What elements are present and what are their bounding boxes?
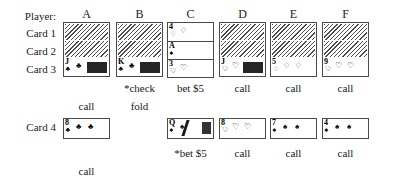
card-face-up: 3♡♡ bbox=[168, 59, 213, 77]
card-pip-hearts-icon: ♡ bbox=[244, 123, 251, 131]
poker-hand-diagram: Player:Card 1Card 2Card 3Card 4ABCDEFJ♣♣… bbox=[0, 0, 403, 181]
card-suit-spades-icon: ♠ bbox=[170, 127, 174, 134]
row-label-card-1: Card 1 bbox=[8, 28, 56, 39]
card-suit-diamonds-icon: ♢ bbox=[273, 66, 279, 73]
card-face-up: 8♣♣♣ bbox=[64, 119, 109, 138]
row-label-card-4: Card 4 bbox=[8, 122, 56, 133]
card-pip-hearts-icon: ♡ bbox=[335, 62, 342, 70]
column-header-player-d: D bbox=[219, 8, 266, 20]
action-player-f-round-1: call bbox=[316, 83, 375, 94]
column-header-player-a: A bbox=[63, 8, 110, 20]
card-suit-hearts-icon: ♡ bbox=[325, 66, 331, 73]
card-suit-spades-icon: ♠ bbox=[273, 127, 277, 134]
card-face-up: 4♠♠♠ bbox=[323, 119, 368, 138]
card-face-down bbox=[65, 41, 108, 57]
card-suit-diamonds-icon: ♢ bbox=[170, 31, 176, 38]
card4-player-d: 8♡♡♡ bbox=[219, 118, 266, 139]
card-suit-hearts-icon: ♡ bbox=[170, 68, 176, 75]
action-player-c-round-3: *bet $5 bbox=[161, 148, 220, 159]
card-stack-player-d: J♡♡ bbox=[219, 22, 266, 77]
card-face-down bbox=[221, 24, 264, 40]
action-player-f-round-3: call bbox=[316, 148, 375, 159]
card-suit-hearts-icon: ♡ bbox=[222, 66, 228, 73]
card-pip-diamonds-icon: ♢ bbox=[180, 27, 187, 35]
column-header-player-c: C bbox=[167, 8, 214, 20]
card-pip-hearts-icon: ♡ bbox=[180, 64, 187, 72]
card-suit-clubs-icon: ♣ bbox=[66, 127, 71, 134]
card-face-up: J♡♡ bbox=[220, 58, 265, 76]
card-pip-hearts-icon: ♡ bbox=[232, 123, 239, 131]
action-player-a-round-4: call bbox=[57, 166, 116, 177]
card-suit-hearts-icon: ♡ bbox=[222, 127, 228, 134]
card4-player-a: 8♣♣♣ bbox=[63, 118, 110, 139]
card-face-up: 4♢♢ bbox=[168, 23, 213, 41]
card-overlap-artifact bbox=[87, 62, 107, 73]
column-header-player-e: E bbox=[270, 8, 317, 20]
card-suit-spades-icon: ♠ bbox=[325, 127, 329, 134]
card-stack-player-c: 4♢♢A♠3♡♡ bbox=[167, 22, 214, 78]
row-label-player: Player: bbox=[8, 11, 56, 22]
card-stack-player-a: J♣♣ bbox=[63, 22, 110, 77]
card-face-up: 5♢♢♢ bbox=[271, 58, 316, 76]
card-pip-hearts-icon: ♡ bbox=[347, 62, 354, 70]
card-pip-hearts-icon: ♡ bbox=[232, 62, 239, 70]
action-player-e-round-3: call bbox=[264, 148, 323, 159]
card-face-down bbox=[272, 24, 315, 40]
card-stack-player-e: 5♢♢♢ bbox=[270, 22, 317, 77]
card-pip-spades-icon: ♠ bbox=[335, 123, 339, 131]
card-face-up: K♣♣ bbox=[117, 58, 162, 76]
card-pip-clubs-icon: ♣ bbox=[76, 62, 81, 70]
card-face-down bbox=[324, 41, 367, 57]
card-suit-spades-icon: ♠ bbox=[170, 50, 174, 57]
card4-player-c: Q♠♠ bbox=[167, 118, 214, 139]
card-face-up: 8♡♡♡ bbox=[220, 119, 265, 138]
card-pip-spades-icon: ♠ bbox=[283, 123, 287, 131]
card-stack-player-f: 9♡♡♡ bbox=[322, 22, 369, 77]
card-face-down bbox=[118, 41, 161, 57]
card-pip-diamonds-icon: ♢ bbox=[295, 62, 302, 70]
card-face-up: J♣♣ bbox=[64, 58, 109, 76]
card-face-up: 9♡♡♡ bbox=[323, 58, 368, 76]
card-pip-clubs-icon: ♣ bbox=[129, 62, 134, 70]
action-player-a-round-2: call bbox=[57, 101, 116, 112]
card-face-up: Q♠♠ bbox=[168, 119, 213, 138]
card-pip-clubs-icon: ♣ bbox=[76, 123, 81, 131]
card-overlap-artifact bbox=[140, 62, 160, 73]
card4-player-e: 7♠♠♠ bbox=[270, 118, 317, 139]
card-stack-player-b: K♣♣ bbox=[116, 22, 163, 77]
card-face-down bbox=[221, 41, 264, 57]
card-face-up: 7♠♠♠ bbox=[271, 119, 316, 138]
card-pip-spades-icon: ♠ bbox=[295, 123, 299, 131]
card-face-up: A♠ bbox=[168, 41, 213, 59]
column-header-player-f: F bbox=[322, 8, 369, 20]
row-label-card-3: Card 3 bbox=[8, 64, 56, 75]
action-player-c-round-1: bet $5 bbox=[161, 83, 220, 94]
row-label-card-2: Card 2 bbox=[8, 46, 56, 57]
column-header-player-b: B bbox=[116, 8, 163, 20]
card-face-down bbox=[65, 24, 108, 40]
card-face-down bbox=[324, 24, 367, 40]
card-suit-clubs-icon: ♣ bbox=[66, 66, 71, 73]
card-pip-diamonds-icon: ♢ bbox=[283, 62, 290, 70]
card-face-down bbox=[118, 24, 161, 40]
card-overlap-artifact bbox=[243, 62, 263, 73]
card4-player-f: 4♠♠♠ bbox=[322, 118, 369, 139]
card-overlap-artifact bbox=[202, 122, 211, 134]
card-pip-spades-icon: ♠ bbox=[347, 123, 351, 131]
action-player-e-round-1: call bbox=[264, 83, 323, 94]
card-pip-clubs-icon: ♣ bbox=[88, 123, 93, 131]
action-player-b-round-2: fold bbox=[110, 101, 169, 112]
card-face-down bbox=[272, 41, 315, 57]
card-suit-clubs-icon: ♣ bbox=[119, 66, 124, 73]
